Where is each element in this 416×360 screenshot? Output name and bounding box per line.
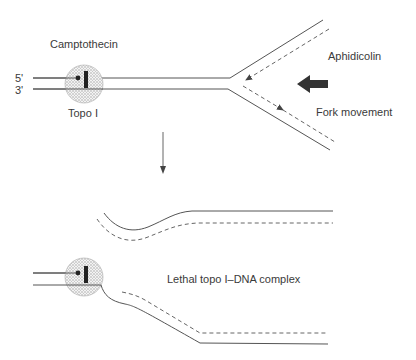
replication-fork-diagram: Camptothecin 5' 3' Topo I Aphidicolin Fo… [0, 0, 416, 360]
lagging-nascent-strand [246, 29, 329, 80]
topo-i-label: Topo I [68, 107, 98, 119]
fork-movement-label: Fork movement [316, 106, 392, 118]
fork-upper-arm [230, 20, 323, 78]
leading-nascent-strand-head [243, 86, 283, 110]
aphidicolin-label: Aphidicolin [328, 50, 381, 62]
bottom-panel: Lethal topo I–DNA complex [33, 211, 333, 344]
lethal-complex-label: Lethal topo I–DNA complex [167, 273, 301, 285]
five-prime-label: 5' [15, 72, 23, 84]
topo-i-complex-icon [33, 258, 103, 296]
detached-parental-strand [104, 211, 333, 230]
three-prime-label: 3' [15, 84, 23, 96]
nascent-strand [122, 292, 328, 333]
fork-direction-arrow-icon [297, 75, 328, 93]
top-panel: Camptothecin 5' 3' Topo I Aphidicolin Fo… [15, 20, 392, 150]
camptothecin-bar-icon [84, 71, 88, 88]
fork-lower-arm [228, 89, 330, 150]
camptothecin-bar-icon [84, 266, 88, 283]
template-strand [101, 285, 328, 344]
camptothecin-label: Camptothecin [50, 38, 118, 50]
nick-dot-icon [76, 76, 81, 81]
nick-dot-icon [76, 271, 81, 276]
down-arrow-icon [160, 132, 166, 174]
topo-i-enzyme-icon [33, 65, 103, 103]
